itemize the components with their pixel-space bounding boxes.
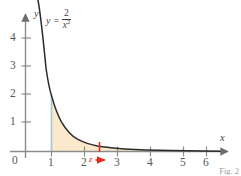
x-tick-label-6: 6: [203, 157, 209, 169]
x-tick-label-4: 4: [147, 157, 153, 169]
y-tick-label-2: 2: [10, 88, 16, 100]
curve-equation-label: y = 2 x2: [46, 10, 71, 31]
y-tick-label-1: 1: [10, 116, 16, 128]
x-tick-label-1: 1: [48, 157, 54, 169]
denominator-exponent: 2: [67, 17, 70, 24]
x-tick-label-3: 3: [114, 157, 120, 169]
equation-fraction: 2 x2: [62, 9, 71, 30]
y-axis-name: y: [34, 9, 39, 20]
y-tick-label-4: 4: [10, 32, 16, 44]
equation-lhs: y =: [46, 16, 60, 26]
equation-denominator: x2: [62, 21, 71, 31]
x-tick-label-2: 2: [81, 157, 87, 169]
z-marker-label: z: [89, 155, 92, 164]
x-axis-name: x: [220, 133, 225, 144]
figure-caption: Fig. 2: [219, 167, 239, 176]
shaded-area-under-curve: [52, 96, 229, 152]
figure-container: y = 2 x2 y x 0 1 2 3 4 1 2 3 4 5 6 z Fig…: [0, 0, 241, 175]
plot-canvas: [0, 0, 241, 175]
x-tick-label-5: 5: [180, 157, 186, 169]
y-axis-ticks: [22, 38, 32, 122]
y-tick-label-3: 3: [10, 60, 16, 72]
origin-label: 0: [12, 155, 18, 167]
